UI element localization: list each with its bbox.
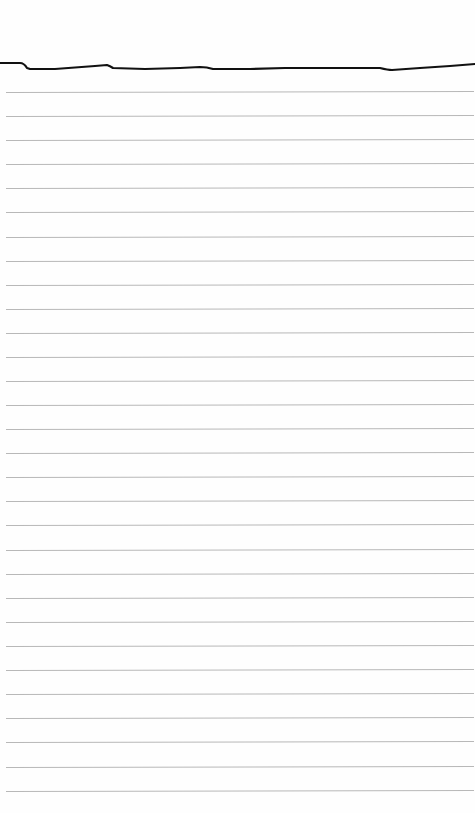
ruled-line xyxy=(6,356,474,358)
ruled-line xyxy=(6,452,474,454)
ruled-line xyxy=(6,139,474,141)
ruled-line xyxy=(6,524,474,526)
ruled-line xyxy=(6,476,474,478)
ruled-line xyxy=(6,621,474,623)
ruled-line xyxy=(6,260,474,262)
ruled-line xyxy=(6,115,474,117)
ruled-line xyxy=(6,308,474,310)
ruled-line xyxy=(6,717,474,719)
ruled-line xyxy=(6,669,474,671)
torn-top-edge-stroke xyxy=(0,0,475,100)
ruled-line xyxy=(6,573,474,575)
ruled-line xyxy=(6,428,474,430)
ruled-line xyxy=(6,211,474,213)
lined-paper-sheet xyxy=(0,0,475,813)
ruled-line xyxy=(6,163,474,165)
ruled-line xyxy=(6,790,474,792)
ruled-line xyxy=(6,741,474,743)
ruled-line xyxy=(6,766,474,768)
ruled-line xyxy=(6,187,474,189)
ruled-line xyxy=(6,549,474,551)
ruled-line xyxy=(6,500,474,502)
ruled-line xyxy=(6,284,474,286)
ruled-line xyxy=(6,597,474,599)
ruled-line xyxy=(6,693,474,695)
ruled-line xyxy=(6,236,474,238)
ruled-line xyxy=(6,645,474,647)
ruled-line xyxy=(6,404,474,406)
ruled-line xyxy=(6,332,474,334)
ruled-line xyxy=(6,380,474,382)
